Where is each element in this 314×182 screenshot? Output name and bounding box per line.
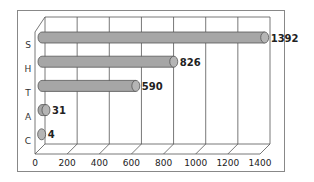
bar-end-cap xyxy=(42,105,50,116)
bar-C xyxy=(38,129,46,140)
data-label: 4 xyxy=(48,129,55,140)
x-tick-label: 0 xyxy=(32,158,38,168)
x-tick-label: 1400 xyxy=(249,158,272,168)
x-tick-label: 1000 xyxy=(184,158,207,168)
category-label: T xyxy=(24,88,31,98)
bar-end-cap xyxy=(261,32,269,43)
bar-body xyxy=(38,80,136,91)
data-label: 590 xyxy=(142,81,163,92)
x-tick-label: 400 xyxy=(91,158,108,168)
bar-body xyxy=(38,56,174,67)
bar-end-cap xyxy=(132,80,140,91)
data-label: 826 xyxy=(180,57,201,68)
x-tick-label: 600 xyxy=(123,158,140,168)
bar-T xyxy=(38,80,140,91)
category-label: A xyxy=(25,112,32,122)
bar-end-cap xyxy=(170,56,178,67)
bar-A xyxy=(38,105,50,116)
bar-end-cap xyxy=(38,129,46,140)
data-label: 31 xyxy=(52,105,66,116)
category-label: S xyxy=(25,40,31,50)
bar-chart: SHTAC 0200400600800100012001400 13928265… xyxy=(0,0,314,182)
x-tick-label: 1200 xyxy=(216,158,239,168)
bar-body xyxy=(38,32,265,43)
data-label: 1392 xyxy=(271,33,299,44)
x-tick-label: 800 xyxy=(155,158,172,168)
category-label: C xyxy=(25,136,31,146)
bar-H xyxy=(38,56,178,67)
x-tick-label: 200 xyxy=(59,158,76,168)
bar-S xyxy=(38,32,269,43)
category-label: H xyxy=(25,64,32,74)
